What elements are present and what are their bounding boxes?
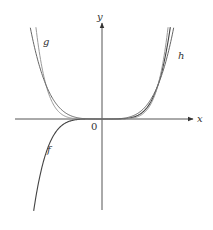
curve-label-h: h bbox=[178, 50, 184, 61]
x-axis-label: x bbox=[197, 113, 203, 124]
y-axis-label: y bbox=[96, 11, 103, 22]
origin-label: 0 bbox=[91, 121, 97, 132]
curve-label-f: f bbox=[46, 144, 53, 155]
curve-label-g: g bbox=[43, 36, 49, 47]
power-functions-graph: x y 0 f g h bbox=[0, 0, 213, 230]
